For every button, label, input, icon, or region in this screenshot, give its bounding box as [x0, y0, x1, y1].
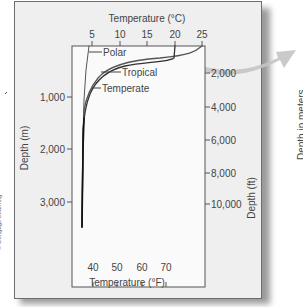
- left-tick-label: 1,000: [40, 92, 65, 103]
- side-label-depth-meters: Depth in meters: [296, 89, 303, 160]
- bottom-tick-label: 70: [160, 262, 172, 273]
- top-axis-title: Temperature (°C): [109, 13, 186, 24]
- right-axis-ticks: [205, 73, 210, 204]
- right-tick-label: 2,000: [211, 68, 236, 79]
- top-tick-label: 10: [114, 29, 126, 40]
- top-tick-label: 20: [169, 29, 181, 40]
- left-axis-title: Depth (m): [19, 126, 30, 170]
- series-label-temperate: Temperate: [102, 83, 150, 94]
- ocean-temperature-depth-chart: Temperature (°C) 5 10 15 20 25 1,000 2,0…: [0, 0, 303, 307]
- top-tick-label: 5: [89, 29, 95, 40]
- top-tick-label: 15: [141, 29, 153, 40]
- left-axis-ticks: [67, 97, 72, 202]
- series-label-tropical: Tropical: [122, 67, 157, 78]
- copyright-credit: © Cengage Learning: [0, 195, 2, 250]
- left-tick-label: 2,000: [40, 144, 65, 155]
- right-tick-label: 8,000: [211, 168, 236, 179]
- bottom-tick-label: 60: [136, 262, 148, 273]
- top-tick-label: 25: [196, 29, 208, 40]
- right-tick-label: 10,000: [211, 199, 242, 210]
- bottom-tick-label: 50: [111, 262, 123, 273]
- right-tick-label: 6,000: [211, 135, 236, 146]
- margin-mark: [5, 92, 7, 94]
- bottom-tick-label: 40: [87, 262, 99, 273]
- series-label-polar: Polar: [103, 47, 127, 58]
- left-tick-label: 3,000: [40, 197, 65, 208]
- swoosh-arrow-icon: [190, 50, 296, 75]
- right-tick-label: 4,000: [211, 102, 236, 113]
- top-axis-ticks: [92, 41, 202, 46]
- bottom-axis-title: Temperature (°F): [89, 277, 165, 288]
- right-axis-title: Depth (ft): [246, 177, 257, 219]
